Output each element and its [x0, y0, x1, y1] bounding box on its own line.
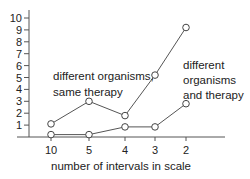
data-point — [122, 112, 129, 119]
x-axis-label: number of intervals in scale — [51, 160, 191, 172]
annotation-series-2-line-2: organisms — [183, 74, 236, 86]
data-point — [122, 124, 129, 131]
annotation-series-1-line-2: same therapy — [53, 86, 123, 98]
y-tick-label: 6 — [16, 60, 22, 72]
data-point — [48, 121, 55, 128]
x-tick-label: 2 — [183, 144, 189, 156]
data-point — [183, 100, 190, 107]
annotation-series-1-line-1: different organisms, — [53, 70, 154, 82]
x-tick-label: 3 — [152, 144, 158, 156]
x-tick-label: 5 — [86, 144, 92, 156]
x-tick-label: 10 — [45, 144, 57, 156]
series-line — [51, 104, 186, 135]
y-tick-label: 5 — [16, 72, 22, 84]
annotation-series-2-line-1: different — [183, 59, 225, 71]
y-tick-label: 8 — [16, 36, 22, 48]
annotation-series-2-line-3: and therapy — [183, 89, 244, 101]
data-point — [86, 98, 93, 105]
data-point — [48, 131, 55, 138]
data-point — [86, 131, 93, 138]
y-tick-label: 10 — [10, 12, 22, 24]
y-tick-label: 2 — [16, 107, 22, 119]
y-tick-label: 7 — [16, 48, 22, 60]
x-tick-label: 4 — [122, 144, 128, 156]
data-point — [152, 124, 159, 131]
y-ticks: 12345678910 — [10, 12, 29, 131]
y-tick-label: 9 — [16, 24, 22, 36]
y-tick-label: 4 — [16, 83, 22, 95]
line-chart: 12345678910 105432 different organisms, … — [0, 0, 250, 179]
series-2 — [48, 100, 190, 138]
x-ticks: 105432 — [45, 137, 189, 156]
y-tick-label: 1 — [16, 119, 22, 131]
y-tick-label: 3 — [16, 95, 22, 107]
data-point — [183, 24, 190, 31]
